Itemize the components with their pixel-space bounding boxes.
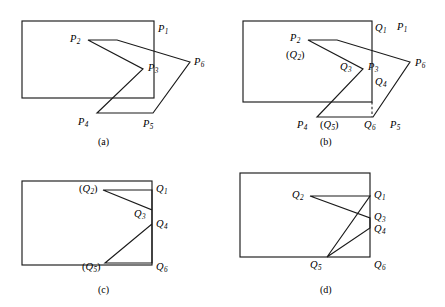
- label-subscript: 4: [382, 228, 386, 236]
- label-base: Q: [374, 259, 382, 270]
- label-base: Q: [292, 189, 300, 200]
- label-subscript: 1: [382, 194, 386, 202]
- label-base: Q: [374, 189, 382, 200]
- clipped-polygon: [310, 196, 370, 257]
- label-base: Q: [374, 211, 382, 222]
- label-base: Q: [374, 223, 382, 234]
- panel-d-label-q4: Q4: [374, 224, 385, 235]
- panel-d-caption: (d): [320, 285, 332, 295]
- panel-d-label-q5: Q5: [310, 260, 321, 271]
- panel-d-label-q6: Q6: [374, 260, 385, 271]
- panel-d-label-q3: Q3: [374, 212, 385, 223]
- panel-d-label-q1: Q1: [374, 190, 385, 201]
- label-subscript: 2: [300, 194, 304, 202]
- label-base: Q: [310, 259, 318, 270]
- panel-d-label-q2: Q2: [292, 190, 303, 201]
- label-subscript: 6: [382, 264, 386, 272]
- label-subscript: 5: [318, 264, 322, 272]
- label-subscript: 3: [382, 216, 386, 224]
- clip-rectangle: [240, 173, 370, 257]
- panel-d: Q2Q1Q3Q4Q5Q6(d): [0, 0, 445, 307]
- figure-root: P1P2P3P4P5P6(a)Q1P1P2(Q2)Q3P3Q4P6P4(Q5)Q…: [0, 0, 445, 307]
